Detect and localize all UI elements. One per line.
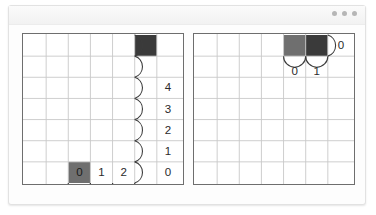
right-dark-cell — [306, 35, 328, 56]
window-titlebar — [9, 6, 365, 25]
right-bottom-label-1: 1 — [314, 65, 320, 77]
window-content: 0 1 2 0 1 2 3 4 — [9, 25, 365, 206]
left-right-label-0: 0 — [165, 166, 171, 178]
app-window: 0 1 2 0 1 2 3 4 — [8, 5, 366, 205]
left-dark-cell — [135, 35, 157, 56]
left-bottom-label-1: 1 — [98, 166, 104, 178]
right-bottom-label-0: 0 — [291, 65, 297, 77]
left-right-label-1: 1 — [165, 145, 171, 157]
right-right-arcs — [328, 35, 336, 56]
right-grid-hlines — [194, 56, 354, 162]
grid-panel-right: 0 1 0 — [193, 33, 355, 185]
left-right-label-3: 3 — [165, 103, 171, 115]
left-gray-cell-label: 0 — [76, 166, 82, 178]
right-gray-cell — [284, 35, 306, 56]
left-right-arcs — [135, 35, 143, 183]
left-grid-svg: 0 1 2 0 1 2 3 4 — [23, 34, 183, 184]
window-dot-2-icon[interactable] — [342, 11, 347, 16]
right-right-label-0: 0 — [338, 39, 344, 51]
grid-panel-left: 0 1 2 0 1 2 3 4 — [22, 33, 184, 185]
window-dot-1-icon[interactable] — [332, 11, 337, 16]
window-controls — [332, 11, 357, 16]
right-grid-svg: 0 1 0 — [194, 34, 354, 184]
left-bottom-arcs — [68, 183, 134, 184]
left-right-label-2: 2 — [165, 124, 171, 136]
left-right-label-4: 4 — [165, 81, 172, 93]
left-grid-hlines — [23, 56, 183, 162]
left-bottom-label-2: 2 — [120, 166, 126, 178]
window-dot-3-icon[interactable] — [352, 11, 357, 16]
